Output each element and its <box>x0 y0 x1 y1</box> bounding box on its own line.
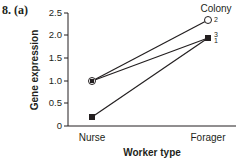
x-axis-label: Worker type <box>123 147 181 158</box>
series-3-line <box>92 38 208 81</box>
y-axis-label: Gene expression <box>29 30 40 111</box>
y-ticks: 0 0.5 1.0 1.5 2.0 2.5 <box>49 7 68 131</box>
series-2-label: 2 <box>214 16 218 23</box>
y-tick-label: 2.0 <box>49 29 62 40</box>
legend-title: Colony <box>200 3 231 14</box>
line-chart: 0 0.5 1.0 1.5 2.0 2.5 Gene expression Nu… <box>0 0 240 159</box>
y-tick-label: 0 <box>57 120 62 131</box>
y-tick-label: 1.0 <box>49 75 62 86</box>
x-category-nurse: Nurse <box>79 132 106 143</box>
series-2-forager-marker <box>205 17 212 24</box>
series-1-3-forager-marker <box>205 35 211 41</box>
y-tick-label: 2.5 <box>49 7 62 18</box>
y-tick-label: 0.5 <box>49 97 62 108</box>
y-tick-label: 1.5 <box>49 52 62 63</box>
series-1-nurse-marker <box>89 114 95 120</box>
x-category-forager: Forager <box>190 132 226 143</box>
series-3-nurse-marker <box>90 79 94 83</box>
series-1-label: 1 <box>214 37 218 44</box>
